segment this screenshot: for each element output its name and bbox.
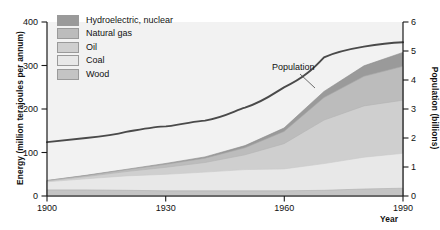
legend-item-oil: Oil xyxy=(57,42,173,53)
x-axis-title: Year xyxy=(380,214,398,224)
x-tick-1930: 1930 xyxy=(146,203,186,213)
population-annotation: Population xyxy=(272,62,315,72)
legend-label-wood: Wood xyxy=(86,69,109,80)
legend-swatch-icon-hydroelectric-nuclear xyxy=(57,15,79,26)
legend-swatch-icon-oil xyxy=(57,42,79,53)
legend-item-natural-gas: Natural gas xyxy=(57,28,173,39)
legend-label-oil: Oil xyxy=(86,42,97,53)
chart-legend: Hydroelectric, nuclear Natural gas Oil C… xyxy=(57,15,173,80)
legend-label-coal: Coal xyxy=(86,55,105,66)
legend-swatch-icon-wood xyxy=(57,69,79,80)
legend-item-hydroelectric-nuclear: Hydroelectric, nuclear xyxy=(57,15,173,26)
x-tick-1960: 1960 xyxy=(264,203,304,213)
y-axis-left-title: Energy (million terajoules per annum) xyxy=(15,18,25,198)
x-tick-1990: 1990 xyxy=(383,203,423,213)
legend-swatch-icon-coal xyxy=(57,55,79,66)
legend-swatch-icon-natural-gas xyxy=(57,28,79,39)
x-axis-ticks xyxy=(47,196,403,202)
legend-label-hydroelectric-nuclear: Hydroelectric, nuclear xyxy=(86,15,173,26)
legend-label-natural-gas: Natural gas xyxy=(86,28,132,39)
legend-item-wood: Wood xyxy=(57,69,173,80)
y-axis-left-ticks xyxy=(42,22,48,196)
y-axis-right-title: Population (billions) xyxy=(430,18,440,198)
x-tick-1900: 1900 xyxy=(27,203,67,213)
y-axis-right-ticks xyxy=(403,22,409,196)
legend-item-coal: Coal xyxy=(57,55,173,66)
